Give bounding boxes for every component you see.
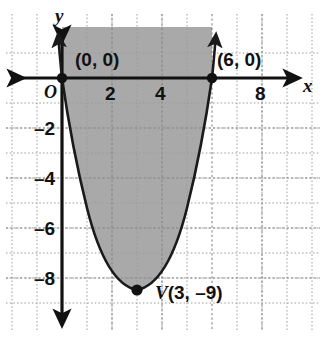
origin-label: O xyxy=(44,83,57,101)
x-tick-label-8: 8 xyxy=(255,84,266,103)
point-label-zero-zero: (0, 0) xyxy=(75,50,119,69)
point-x-intercept-left xyxy=(57,73,67,83)
graph-figure: x y O 2 4 8 –2 –4 –6 –8 (0, 0) (6, 0) V(… xyxy=(0,0,326,341)
point-label-six-zero: (6, 0) xyxy=(217,50,261,69)
y-axis-label: y xyxy=(55,6,63,25)
y-tick-label-minus8: –8 xyxy=(34,269,55,288)
vertex-label-coords: (3, –9) xyxy=(168,282,223,303)
vertex-label-v: V xyxy=(155,282,168,303)
point-vertex xyxy=(131,284,142,295)
y-tick-label-minus4: –4 xyxy=(34,169,55,188)
x-tick-label-2: 2 xyxy=(105,84,116,103)
point-x-intercept-right xyxy=(207,73,217,83)
x-axis-label: x xyxy=(303,76,313,95)
y-tick-label-minus2: –2 xyxy=(34,119,55,138)
y-tick-label-minus6: –6 xyxy=(34,219,55,238)
x-tick-label-4: 4 xyxy=(155,84,166,103)
vertex-label: V(3, –9) xyxy=(155,283,223,302)
